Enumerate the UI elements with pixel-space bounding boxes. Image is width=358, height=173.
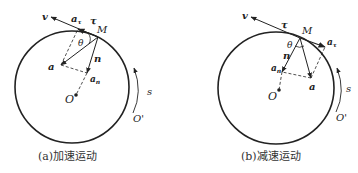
label-theta: θ — [78, 38, 84, 48]
trajectory-circle — [218, 32, 334, 144]
label-total-accel: a — [48, 61, 54, 72]
theta-arc — [88, 33, 90, 44]
motion-diagram: v aτ τ M θ a n an O s O' (a)加速运动 v — [0, 0, 358, 173]
trajectory-circle — [15, 31, 129, 143]
dashed-to-normal — [282, 72, 311, 78]
total-accel-vector — [300, 38, 311, 78]
label-theta: θ — [287, 40, 293, 50]
dashed-normal-to-center — [76, 73, 87, 95]
center-point — [74, 93, 78, 97]
label-total-accel: a — [309, 81, 315, 92]
label-arc-s: s — [147, 86, 152, 97]
caption-a: (a)加速运动 — [38, 150, 97, 163]
label-normal-accel: an — [271, 63, 281, 74]
dashed-to-tangent — [61, 29, 78, 65]
label-tangential-accel: aτ — [71, 13, 82, 25]
dashed-normal-to-center — [279, 72, 282, 90]
label-point-m: M — [301, 25, 313, 36]
label-velocity: v — [242, 10, 248, 21]
center-point — [277, 88, 281, 92]
label-center-o: O — [268, 90, 277, 103]
label-normal-unit: n — [94, 53, 101, 64]
panel-a-accelerating: v aτ τ M θ a n an O s O' (a)加速运动 — [15, 11, 152, 163]
label-tangential-accel: aτ — [327, 37, 338, 48]
label-tangent-unit: τ — [281, 19, 288, 30]
label-normal-unit: n — [283, 50, 290, 61]
label-normal-accel: an — [90, 74, 100, 85]
arc-coordinate-arrow — [133, 68, 138, 113]
arc-coordinate-arrow — [336, 68, 341, 112]
label-origin-o-prime: O' — [133, 113, 144, 124]
tangential-accel-vector — [300, 38, 325, 47]
dashed-to-normal — [61, 65, 87, 73]
label-tangent-unit: τ — [90, 15, 97, 26]
caption-b: (b)减速运动 — [241, 150, 301, 163]
label-origin-o-prime: O' — [336, 112, 347, 123]
dashed-to-tangent — [311, 47, 325, 78]
label-center-o: O — [65, 93, 74, 106]
label-velocity: v — [42, 11, 48, 22]
panel-b-decelerating: v τ M θ aτ n an a O s O' (b)减速运动 — [218, 10, 351, 163]
label-point-m: M — [96, 24, 108, 35]
label-arc-s: s — [346, 83, 351, 94]
